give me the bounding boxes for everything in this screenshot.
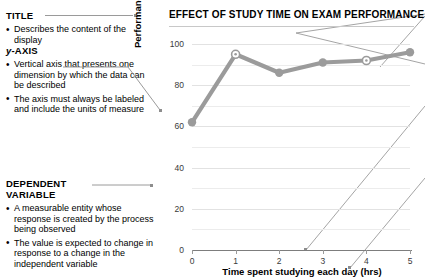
x-tick (279, 250, 280, 254)
x-tick (323, 250, 324, 254)
x-tick-label: 0 (190, 256, 195, 266)
x-tick-label: 2 (277, 256, 282, 266)
x-tick-label: 3 (320, 256, 325, 266)
y-tick-label: 40 (164, 163, 184, 173)
annotation-dependent-variable-bullets: A measurable entity whose response is cr… (6, 203, 156, 269)
x-tick-label: 5 (408, 256, 413, 266)
gridline (192, 188, 410, 189)
x-axis-title: Time spent studying each day (hrs) (192, 266, 412, 277)
x-tick (410, 250, 411, 254)
title-divider (169, 26, 414, 27)
y-axis-title: Performance on midterm exams (%) (132, 0, 143, 48)
list-item: Vertical axis that presents one dimensio… (6, 59, 156, 91)
x-tick (366, 250, 367, 254)
annotation-dependent-variable: DEPENDENT VARIABLE A measurable entity w… (6, 178, 156, 269)
gridline (192, 106, 410, 107)
gridline (192, 229, 410, 230)
list-item: The axis must always be labeled and incl… (6, 94, 156, 115)
y-tick-label: 20 (164, 204, 184, 214)
figure-root: TITLE Describes the content of the displ… (0, 0, 425, 279)
gridline (192, 147, 410, 148)
plot-area (192, 44, 410, 250)
annotation-dependent-variable-heading: DEPENDENT VARIABLE (6, 178, 92, 200)
list-item: A measurable entity whose response is cr… (6, 203, 156, 235)
y-tick-label: 80 (164, 80, 184, 90)
gridline (192, 44, 410, 45)
list-item: The value is expected to change in respo… (6, 238, 156, 270)
chart-panel: EFFECT OF STUDY TIME ON EXAM PERFORMANCE… (140, 0, 425, 279)
annotation-y-axis-heading-text: -AXIS (11, 45, 37, 56)
gridline (192, 209, 410, 210)
gridline (192, 85, 410, 86)
leader-line-title (45, 15, 133, 16)
annotation-y-axis: y-AXIS Vertical axis that presents one d… (6, 45, 156, 115)
annotation-y-axis-bullets: Vertical axis that presents one dimensio… (6, 59, 156, 115)
y-tick-label: 0 (164, 245, 184, 255)
x-tick (236, 250, 237, 254)
gridline (192, 126, 410, 127)
gridline (192, 65, 410, 66)
y-tick-label: 60 (164, 121, 184, 131)
chart-title: EFFECT OF STUDY TIME ON EXAM PERFORMANCE (169, 9, 424, 20)
x-tick (192, 250, 193, 254)
x-tick-label: 1 (233, 256, 238, 266)
y-tick-label: 100 (164, 39, 184, 49)
x-axis-line (192, 250, 412, 251)
x-tick-label: 4 (364, 256, 369, 266)
gridline (192, 168, 410, 169)
